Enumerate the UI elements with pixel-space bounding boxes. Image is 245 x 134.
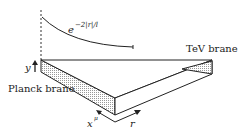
x-label: x <box>87 118 93 129</box>
r-arrow-icon <box>134 110 141 115</box>
warp-label: e <box>68 24 74 35</box>
x-sup: μ <box>94 114 98 122</box>
tev-label: TeV brane <box>186 43 238 54</box>
r-label: r <box>130 118 136 129</box>
y-label: y <box>24 62 31 73</box>
warp-exp: −2|r|/l <box>75 21 98 29</box>
planck-label: Planck brane <box>8 83 75 94</box>
rs-diagram: e −2|r|/l TeV brane Planck brane y x μ r <box>0 0 245 134</box>
y-arrow-icon <box>32 60 38 65</box>
